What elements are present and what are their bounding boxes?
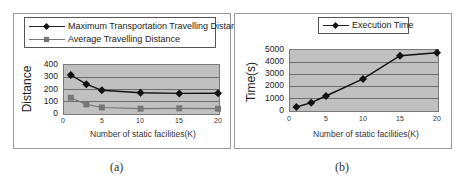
chart-b-xtick: 0 [281, 114, 297, 123]
chart-a-ytick: 100 [28, 96, 58, 106]
legend-line-execution-time [323, 25, 349, 26]
series-line-avg-distance [71, 98, 218, 109]
chart-b-series [289, 49, 438, 111]
chart-a-ytick: 200 [28, 84, 58, 94]
chart-a-ytick: 0 [28, 108, 58, 118]
series-line-execution-time [296, 53, 437, 107]
legend-line-max [29, 26, 65, 27]
chart-b-ytick: 5000 [254, 44, 284, 54]
legend-label-max: Maximum Transportation Travelling Distan… [68, 21, 246, 31]
legend-item-max-distance: Maximum Transportation Travelling Distan… [29, 20, 246, 32]
chart-a-xtick: 0 [55, 116, 71, 125]
chart-b-caption: (b) [335, 160, 349, 175]
chart-a-ytick: 300 [28, 71, 58, 81]
chart-a-xtick: 15 [171, 116, 187, 125]
chart-a-xtick: 5 [94, 116, 110, 125]
chart-b-x-axis-title: Number of static facilities(K) [313, 129, 419, 139]
series-line-max-distance [71, 75, 218, 93]
legend-label-avg: Average Travelling Distance [68, 34, 180, 44]
chart-a-xtick: 20 [210, 116, 226, 125]
chart-b-xtick: 10 [355, 114, 371, 123]
legend-item-avg-distance: Average Travelling Distance [29, 33, 180, 45]
chart-b-xtick: 5 [318, 114, 334, 123]
diamond-marker-icon [43, 23, 50, 30]
chart-b-ytick: 0 [254, 105, 284, 115]
chart-b-ytick: 4000 [254, 56, 284, 66]
legend-line-avg [29, 39, 65, 40]
chart-a-xtick: 10 [132, 116, 148, 125]
chart-b-xtick: 15 [392, 114, 408, 123]
chart-b-ytick: 1000 [254, 93, 284, 103]
chart-a-series [63, 64, 219, 114]
chart-b-xtick: 20 [429, 114, 445, 123]
chart-a-legend: Maximum Transportation Travelling Distan… [24, 17, 216, 48]
chart-b-ytick: 3000 [254, 68, 284, 78]
diamond-marker-icon [332, 22, 339, 29]
chart-a-ytick: 400 [28, 59, 58, 69]
chart-a-caption: (a) [110, 160, 123, 175]
chart-b-ytick: 2000 [254, 80, 284, 90]
chart-b-legend: Execution Time [318, 17, 409, 34]
square-marker-icon [43, 36, 50, 43]
legend-label-execution-time: Execution Time [352, 20, 414, 30]
legend-item-execution-time: Execution Time [323, 19, 414, 31]
chart-a-x-axis-title: Number of static facilities(K) [90, 129, 196, 139]
